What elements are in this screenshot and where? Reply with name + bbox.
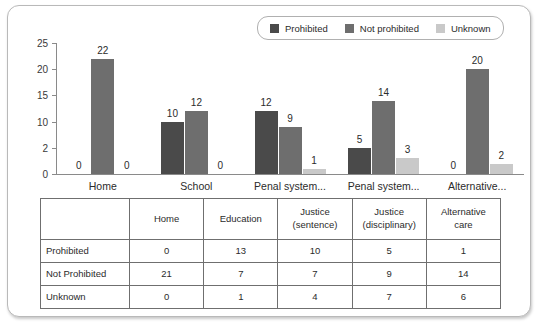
bar: [185, 111, 208, 174]
table-header: HomeEducationJustice(sentence)Justice(di…: [41, 199, 501, 240]
bar-value-label: 2: [498, 150, 504, 161]
bar-value-label: 9: [287, 113, 293, 124]
bar: [161, 122, 184, 174]
bar-value-label: 3: [405, 144, 411, 155]
bar-value-label: 1: [311, 155, 317, 166]
table-column-header-line1: Education: [220, 213, 262, 224]
bar: [348, 148, 371, 174]
table-cell: 0: [130, 286, 204, 309]
x-axis: [56, 174, 524, 175]
table-column-header-line2: (sentence): [278, 219, 351, 232]
table-cell: 1: [204, 286, 278, 309]
bar-value-label: 5: [357, 134, 363, 145]
bar-value-label: 12: [260, 97, 271, 108]
table-corner-cell: [41, 199, 130, 240]
x-axis-category-label: Home: [89, 180, 117, 192]
bar-value-label: 14: [378, 87, 389, 98]
table-cell: 7: [204, 263, 278, 286]
bar-value-label: 0: [450, 160, 456, 171]
data-table: HomeEducationJustice(sentence)Justice(di…: [40, 198, 501, 309]
y-axis-tick-label: 25: [26, 38, 48, 49]
table-row: Prohibited0131051: [41, 240, 501, 263]
y-axis-tick-label: 0: [26, 169, 48, 180]
table-row: Not Prohibited2177914: [41, 263, 501, 286]
bar: [255, 111, 278, 174]
table-cell: 21: [130, 263, 204, 286]
x-axis-category-label: School: [180, 180, 212, 192]
bar: [466, 69, 489, 174]
bar-value-label: 10: [167, 108, 178, 119]
table-row: Unknown01476: [41, 286, 501, 309]
table-row-header: Prohibited: [41, 240, 130, 263]
y-axis-tick-mark: [52, 174, 56, 175]
y-axis-tick-mark: [52, 122, 56, 123]
table-row-header: Not Prohibited: [41, 263, 130, 286]
bar-value-label: 0: [218, 160, 224, 171]
table-cell: 7: [352, 286, 426, 309]
bar-value-label: 0: [76, 160, 82, 171]
table-column-header-line2: care: [427, 219, 500, 232]
x-axis-category-label: Penal system...: [254, 180, 326, 192]
bar-value-label: 20: [472, 55, 483, 66]
bar: [490, 164, 513, 174]
bar-value-label: 12: [191, 97, 202, 108]
table-column-header-line1: Home: [154, 213, 179, 224]
table-column-header: Justice(sentence): [278, 199, 352, 240]
y-axis-tick-mark: [52, 95, 56, 96]
table-column-header: Justice(disciplinary): [352, 199, 426, 240]
y-axis-tick-label: 10: [26, 116, 48, 127]
table-body: Prohibited0131051Not Prohibited2177914Un…: [41, 240, 501, 309]
bar: [279, 127, 302, 174]
y-axis-tick-mark: [52, 148, 56, 149]
table-column-header-line1: Alternative: [441, 206, 486, 217]
bar-chart: ProhibitedNot prohibitedUnknown 25201510…: [8, 6, 532, 191]
bar: [303, 169, 326, 174]
y-axis: [56, 43, 57, 174]
table-cell: 1: [426, 240, 500, 263]
table-column-header-line1: Justice: [300, 206, 330, 217]
table-cell: 6: [426, 286, 500, 309]
table-column-header: Education: [204, 199, 278, 240]
table-header-row: HomeEducationJustice(sentence)Justice(di…: [41, 199, 501, 240]
y-axis-tick-label: 15: [26, 90, 48, 101]
y-axis-tick-label: 2: [26, 142, 48, 153]
x-axis-category-label: Alternative...: [448, 180, 506, 192]
table-cell: 7: [278, 263, 352, 286]
x-axis-category-label: Penal system...: [348, 180, 420, 192]
plot-area: 25201510200220Home10120School1291Penal s…: [8, 6, 532, 191]
y-axis-tick-label: 20: [26, 64, 48, 75]
bar: [396, 158, 419, 174]
table-cell: 13: [204, 240, 278, 263]
y-axis-tick-mark: [52, 69, 56, 70]
table-column-header-line2: (disciplinary): [353, 219, 426, 232]
table-cell: 4: [278, 286, 352, 309]
table-cell: 14: [426, 263, 500, 286]
table-cell: 5: [352, 240, 426, 263]
bar-value-label: 0: [124, 160, 130, 171]
table-cell: 10: [278, 240, 352, 263]
table-row-header: Unknown: [41, 286, 130, 309]
y-axis-tick-mark: [52, 43, 56, 44]
bar: [372, 101, 395, 174]
chart-card: ProhibitedNot prohibitedUnknown 25201510…: [7, 5, 531, 317]
table-cell: 0: [130, 240, 204, 263]
bar-value-label: 22: [97, 45, 108, 56]
table-column-header-line1: Justice: [374, 206, 404, 217]
table-cell: 9: [352, 263, 426, 286]
table-column-header: Alternativecare: [426, 199, 500, 240]
table-column-header: Home: [130, 199, 204, 240]
bar: [91, 59, 114, 174]
